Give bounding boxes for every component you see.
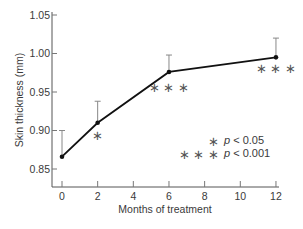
- x-tick-label: 0: [59, 190, 65, 202]
- axes: [52, 12, 279, 187]
- x-axis-title: Months of treatment: [118, 203, 211, 215]
- x-tick-label: 8: [202, 190, 208, 202]
- legend-entry-p001: p < 0.001: [223, 147, 270, 159]
- y-axis-ticks: 0.850.900.951.001.05: [30, 9, 57, 175]
- legend-p-symbol: p: [223, 147, 230, 159]
- legend-entry-p05: p < 0.05: [223, 134, 264, 146]
- x-tick-label: 12: [270, 190, 282, 202]
- legend-value: < 0.05: [230, 134, 264, 146]
- legend-marker-p001: ∗ ∗ ∗: [179, 147, 219, 162]
- significance-marker: ∗: [92, 128, 103, 143]
- chart-canvas: 0.850.900.951.001.05 024681012 ∗∗ ∗ ∗∗ ∗…: [0, 0, 303, 229]
- data-point: [95, 121, 100, 126]
- legend-p-symbol: p: [223, 134, 230, 146]
- x-tick-label: 6: [166, 190, 172, 202]
- data-point: [274, 55, 279, 60]
- data-point: [167, 70, 172, 75]
- y-axis-title: Skin thickness (mm): [13, 53, 25, 148]
- y-tick-label: 0.90: [30, 124, 51, 136]
- x-tick-label: 10: [234, 190, 246, 202]
- line-chart: 0.850.900.951.001.05 024681012 ∗∗ ∗ ∗∗ ∗…: [0, 0, 303, 229]
- significance-marker: ∗ ∗ ∗: [149, 80, 189, 95]
- legend-value: < 0.001: [230, 147, 270, 159]
- x-tick-label: 2: [95, 190, 101, 202]
- y-tick-label: 1.00: [30, 47, 51, 59]
- y-tick-label: 0.85: [30, 163, 51, 175]
- significance-markers: ∗∗ ∗ ∗∗ ∗ ∗: [92, 61, 296, 142]
- x-axis-ticks: 024681012: [59, 181, 282, 202]
- x-tick-label: 4: [130, 190, 136, 202]
- significance-marker: ∗ ∗ ∗: [256, 61, 296, 76]
- legend: ∗ p < 0.05 ∗ ∗ ∗ p < 0.001: [179, 134, 270, 162]
- y-tick-label: 1.05: [30, 9, 51, 21]
- data-point: [60, 154, 65, 159]
- y-tick-label: 0.95: [30, 86, 51, 98]
